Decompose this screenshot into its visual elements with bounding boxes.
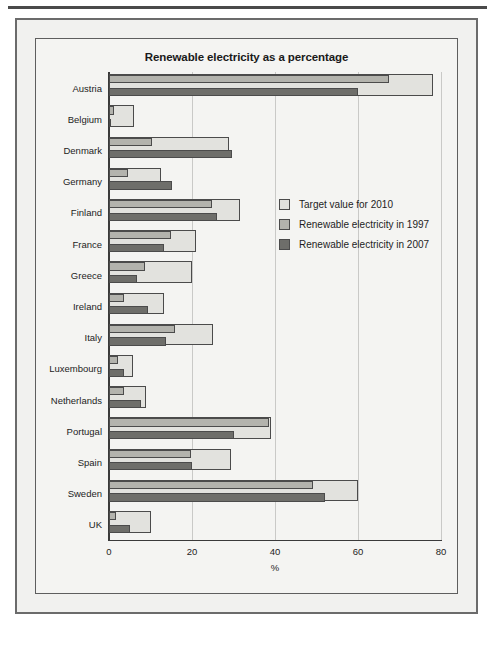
bar-1997 [109,231,171,239]
bar-group: Portugal [109,415,441,446]
bar-1997 [109,169,128,177]
figure-outer-frame: Renewable electricity as a percentage 02… [15,18,478,614]
category-label: Austria [72,82,102,93]
bar-group: Austria [109,72,441,103]
bar-1997 [109,450,191,458]
bar-2007 [109,88,358,96]
bar-group: Belgium [109,103,441,134]
x-axis-tick-label: 80 [436,546,447,557]
plot-area: 020406080%AustriaBelgiumDenmarkGermanyFi… [109,72,441,540]
x-axis-tick-label: 60 [353,546,364,557]
category-label: Ireland [73,300,102,311]
chart-legend: Target value for 2010 Renewable electric… [279,199,429,259]
x-axis-tick-label: 40 [270,546,281,557]
bar-2007 [109,181,172,189]
bar-2007 [109,119,111,127]
bar-1997 [109,200,212,208]
category-label: Finland [71,207,102,218]
category-label: Portugal [67,425,102,436]
category-label: Italy [85,332,102,343]
category-label: France [72,238,102,249]
chart-title: Renewable electricity as a percentage [36,51,457,63]
bar-1997 [109,138,152,146]
bar-1997 [109,387,124,395]
category-label: Netherlands [51,394,102,405]
legend-swatch-2007-icon [279,239,290,250]
bar-1997 [109,356,118,364]
legend-item-target: Target value for 2010 [279,199,429,210]
legend-label-target: Target value for 2010 [299,199,393,210]
category-label: Greece [71,269,102,280]
bar-1997 [109,481,313,489]
bar-2007 [109,431,234,439]
bar-1997 [109,262,145,270]
category-label: Spain [78,456,102,467]
legend-label-1997: Renewable electricity in 1997 [299,219,429,230]
bar-group: Ireland [109,290,441,321]
figure-inner-frame: Renewable electricity as a percentage 02… [35,38,458,594]
bar-group: Denmark [109,134,441,165]
page-top-rule [8,6,487,9]
legend-swatch-1997-icon [279,219,290,230]
legend-swatch-target-icon [279,199,290,210]
bar-2007 [109,369,124,377]
bar-1997 [109,294,124,302]
bar-group: UK [109,509,441,540]
bar-2007 [109,493,325,501]
bar-group: Greece [109,259,441,290]
bar-1997 [109,512,116,520]
bar-2007 [109,150,232,158]
x-axis-tick-label: 20 [187,546,198,557]
bar-group: Germany [109,166,441,197]
bar-1997 [109,418,269,426]
gridline [441,72,442,540]
bar-1997 [109,75,389,83]
bar-1997 [109,325,175,333]
category-label: Belgium [68,113,102,124]
category-label: Germany [63,176,102,187]
bar-2007 [109,306,148,314]
x-axis-tick-label: 0 [106,546,111,557]
bar-2007 [109,400,141,408]
bar-1997 [109,106,114,114]
bar-group: Sweden [109,478,441,509]
bar-2007 [109,337,166,345]
legend-item-2007: Renewable electricity in 2007 [279,239,429,250]
category-label: Luxembourg [49,363,102,374]
legend-item-1997: Renewable electricity in 1997 [279,219,429,230]
category-label: UK [89,519,102,530]
bar-2007 [109,275,137,283]
bar-2007 [109,213,217,221]
category-label: Denmark [63,144,102,155]
legend-label-2007: Renewable electricity in 2007 [299,239,429,250]
bar-group: Italy [109,322,441,353]
bar-group: Netherlands [109,384,441,415]
x-axis-caption: % [109,562,441,573]
bar-group: Luxembourg [109,353,441,384]
figure-page: Renewable electricity as a percentage 02… [0,0,495,668]
bar-2007 [109,525,130,533]
category-label: Sweden [68,488,102,499]
bar-group: Spain [109,446,441,477]
bar-2007 [109,244,164,252]
bar-2007 [109,462,192,470]
